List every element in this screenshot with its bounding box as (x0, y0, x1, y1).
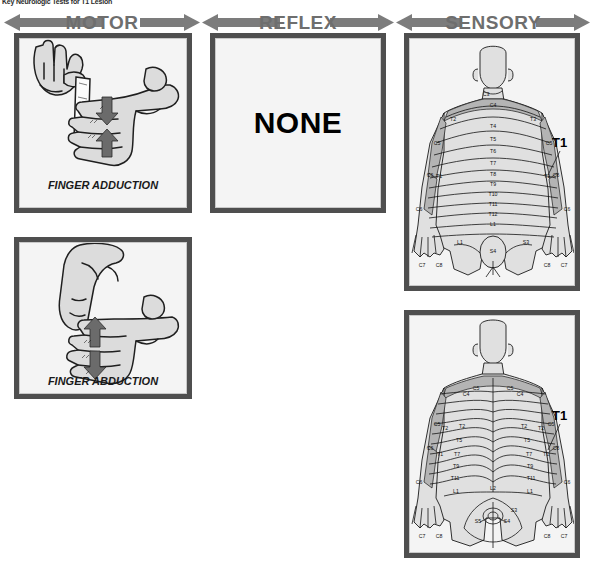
dermatome-label: T2 (450, 116, 456, 122)
panel-inner: C4 C5 C5 C4 T2 T2 T5 T5 T7 T7 T9 T9 T11 … (409, 315, 575, 553)
dermatome-label: C5 (507, 385, 514, 391)
dermatome-label: S3 (511, 507, 517, 513)
dermatome-label b: C7 (419, 262, 426, 268)
motor-panel-finger-abduction: FINGER ABDUCTION (14, 237, 192, 399)
dermatome-label: T5 (524, 437, 530, 443)
banner-sensory: SENSORY (396, 12, 590, 34)
dermatome-map-anterior: C3 C4 T2 T3 T4 T5 T6 T7 T8 T9 T10 T11 T1… (410, 39, 575, 286)
dermatome-label: C6 (416, 206, 423, 212)
dermatome-label: C6 (427, 172, 434, 178)
panel-inner: FINGER ADDUCTION (19, 38, 187, 208)
dermatome-label: T5 (490, 136, 496, 142)
dermatome-label: L1 (453, 488, 459, 494)
dermatome-label: S4 (490, 248, 496, 254)
dermatome-label: C6 (416, 479, 423, 485)
dermatome-label: T1 (436, 173, 442, 179)
dermatome-label: T5 (456, 437, 462, 443)
dermatome-label: T2 (442, 425, 448, 431)
motor-caption-finger-abduction: FINGER ABDUCTION (20, 375, 186, 387)
dermatome-label: T1 (544, 173, 550, 179)
dermatome-label: L1 (490, 221, 496, 227)
sensory-panel-posterior: C4 C5 C5 C4 T2 T2 T5 T5 T7 T7 T9 T9 T11 … (404, 310, 580, 558)
dermatome-label: C4 (517, 391, 524, 397)
dermatome-label b: C8 (436, 262, 443, 268)
dermatome-label: C4 (490, 102, 497, 108)
dermatome-map-posterior: C4 C5 C5 C4 T2 T2 T5 T5 T7 T7 T9 T9 T11 … (410, 316, 575, 553)
dermatome-label: C5 (434, 140, 441, 146)
dermatome-label: L2 (490, 485, 496, 491)
reflex-value: NONE (216, 106, 380, 140)
dermatome-label: C6 (553, 172, 560, 178)
dermatome-label: T2 (521, 423, 527, 429)
dermatome-label: T10 (489, 191, 498, 197)
dermatome-label: S5 (475, 518, 481, 524)
dermatome-label: C6 (553, 445, 560, 451)
dermatome-label: C5 (434, 421, 441, 427)
motor-caption-finger-adduction: FINGER ADDUCTION (20, 179, 186, 191)
dermatome-label: T9 (490, 181, 496, 187)
finger-abduction-illustration (20, 243, 187, 394)
dermatome-label: T6 (490, 148, 496, 154)
dermatome-label b: C7 (419, 533, 426, 539)
dermatome-label: C4 (463, 391, 470, 397)
dermatome-label: C3 (483, 91, 490, 97)
panel-inner: FINGER ABDUCTION (19, 242, 187, 394)
dermatome-label: T12 (489, 211, 498, 217)
banner-motor: MOTOR (4, 12, 200, 34)
dermatome-label: T11 (527, 475, 536, 481)
dermatome-label: S3 (523, 239, 529, 245)
dermatome-label: T11 (489, 201, 498, 207)
banner-reflex: REFLEX (202, 12, 394, 34)
dermatome-label: T3 (530, 116, 536, 122)
dermatome-label b: C8 (436, 533, 443, 539)
dermatome-label: T7 (454, 451, 460, 457)
sensory-callout-posterior: T1 (552, 408, 567, 423)
dermatome-label: T7 (490, 160, 496, 166)
dermatome-label: C5 (473, 385, 480, 391)
motor-panel-finger-adduction: FINGER ADDUCTION (14, 33, 192, 213)
dermatome-label: T1 (437, 451, 443, 457)
dermatome-label: L1 (527, 488, 533, 494)
dermatome-label: T8 (490, 171, 496, 177)
panel-inner: C3 C4 T2 T3 T4 T5 T6 T7 T8 T9 T10 T11 T1… (409, 38, 575, 286)
page-caption: Key Neurologic Tests for T1 Lesion (2, 0, 112, 5)
dermatome-label: T1 (543, 451, 549, 457)
banner-label-motor: MOTOR (4, 12, 200, 34)
banner-label-sensory: SENSORY (396, 12, 590, 34)
dermatome-label: C6 (427, 445, 434, 451)
dermatome-label: T11 (451, 475, 460, 481)
dermatome-label: T9 (527, 463, 533, 469)
dermatome-label b: C8 (544, 533, 551, 539)
dermatome-label b: C7 (561, 262, 568, 268)
dermatome-label: S4 (504, 518, 510, 524)
sensory-panel-anterior: C3 C4 T2 T3 T4 T5 T6 T7 T8 T9 T10 T11 T1… (404, 33, 580, 291)
dermatome-label: T9 (453, 463, 459, 469)
sensory-callout-anterior: T1 (552, 135, 567, 150)
reflex-panel: NONE (210, 33, 386, 213)
dermatome-label b: C8 (544, 262, 551, 268)
dermatome-label b: C7 (561, 533, 568, 539)
banner-label-reflex: REFLEX (202, 12, 394, 34)
dermatome-label: C6 (564, 479, 571, 485)
dermatome-label: L1 (457, 239, 463, 245)
dermatome-label: T2 (459, 423, 465, 429)
dermatome-label: C6 (564, 206, 571, 212)
dermatome-label: T4 (490, 123, 496, 129)
dermatome-label: T2 (538, 425, 544, 431)
dermatome-label: T7 (526, 451, 532, 457)
panel-inner: NONE (215, 38, 381, 208)
